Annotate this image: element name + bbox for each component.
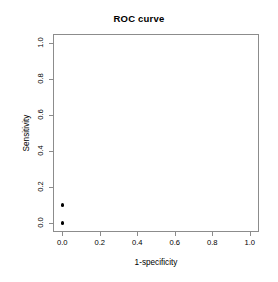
y-axis-tick [49, 79, 53, 80]
x-axis-tick-label: 0.6 [160, 238, 190, 247]
x-axis-tick [250, 232, 251, 236]
x-axis-tick-label: 0.4 [122, 238, 152, 247]
x-axis-tick-label: 0.0 [47, 238, 77, 247]
x-axis-tick-label: 0.2 [85, 238, 115, 247]
x-axis-tick [100, 232, 101, 236]
y-axis-tick-label: 0.0 [36, 216, 45, 230]
y-axis-tick [49, 115, 53, 116]
y-axis-tick [49, 223, 53, 224]
x-axis-tick [212, 232, 213, 236]
y-axis-tick-label: 0.8 [36, 71, 45, 85]
y-axis-tick [49, 151, 53, 152]
x-axis-tick-label: 1.0 [235, 238, 265, 247]
x-axis-label: 1-specificity [53, 258, 259, 267]
roc-curve-plot: ROC curve 1-specificity Sensitivity 0.00… [0, 0, 278, 282]
y-axis-tick [49, 187, 53, 188]
chart-title: ROC curve [0, 13, 278, 24]
x-axis-tick [175, 232, 176, 236]
y-axis-label: Sensitivity [20, 34, 34, 232]
y-axis-tick-label: 0.6 [36, 107, 45, 121]
x-axis-tick-label: 0.8 [197, 238, 227, 247]
x-axis-tick [62, 232, 63, 236]
x-axis-tick [137, 232, 138, 236]
y-axis-tick-label: 1.0 [36, 35, 45, 49]
y-axis-tick [49, 43, 53, 44]
y-axis-tick-label: 0.2 [36, 180, 45, 194]
plot-frame [53, 34, 259, 232]
y-axis-tick-label: 0.4 [36, 144, 45, 158]
